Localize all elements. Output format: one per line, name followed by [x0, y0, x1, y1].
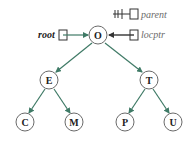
tree-node-E: E [40, 71, 58, 89]
locptr-label: locptr [141, 29, 165, 40]
edge-E-M [54, 89, 70, 113]
parent-label: parent [140, 9, 167, 20]
tree-node-M: M [65, 113, 83, 131]
node-label: U [169, 117, 176, 128]
parent-box [130, 9, 138, 19]
node-label: O [94, 30, 102, 41]
parent-pointer: parent [113, 9, 167, 20]
node-label: T [146, 75, 153, 86]
node-label: C [21, 117, 28, 128]
root-label: root [38, 29, 56, 40]
binary-tree-diagram: parent root locptr O E T C M [0, 0, 195, 142]
edge-O-T [105, 43, 142, 72]
node-label: P [122, 117, 128, 128]
tree-node-C: C [16, 113, 34, 131]
edge-E-C [29, 89, 45, 113]
node-label: E [46, 75, 53, 86]
node-label: M [69, 117, 79, 128]
edge-T-U [153, 89, 169, 113]
tree-node-T: T [140, 71, 158, 89]
locptr-pointer: locptr [109, 29, 165, 40]
edge-T-P [129, 89, 145, 113]
tree-node-P: P [116, 113, 134, 131]
tree-node-O: O [89, 26, 107, 44]
tree-node-U: U [164, 113, 182, 131]
edge-O-E [56, 43, 92, 72]
root-pointer: root [38, 29, 88, 40]
